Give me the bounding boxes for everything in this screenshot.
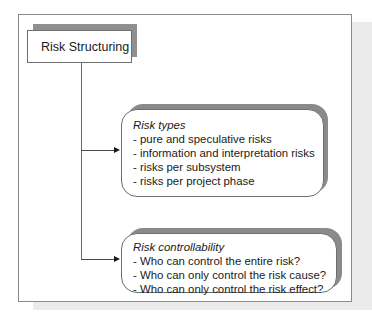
node-heading: Risk controllability — [133, 240, 336, 254]
risk-types-node: Risk types - pure and speculative risks … — [121, 109, 324, 197]
connector-branch-2 — [81, 259, 115, 260]
arrowhead-icon — [114, 147, 120, 153]
node-item: - Who can only control the risk cause? — [133, 268, 336, 282]
node-item: - pure and speculative risks — [133, 132, 323, 146]
node-item: - Who can control the entire risk? — [133, 254, 336, 268]
root-node-label: Risk Structuring — [41, 40, 129, 54]
node-item: - risks per subsystem — [133, 160, 323, 174]
root-node: Risk Structuring — [27, 30, 132, 63]
risk-controllability-node: Risk controllability - Who can control t… — [121, 233, 337, 293]
node-item: - information and interpretation risks — [133, 146, 323, 160]
node-item: - risks per project phase — [133, 174, 323, 188]
node-heading: Risk types — [133, 118, 323, 132]
connector-trunk — [81, 63, 82, 260]
node-item: - Who can only control the risk effect? — [133, 282, 336, 296]
arrowhead-icon — [114, 256, 120, 262]
connector-branch-1 — [81, 150, 115, 151]
